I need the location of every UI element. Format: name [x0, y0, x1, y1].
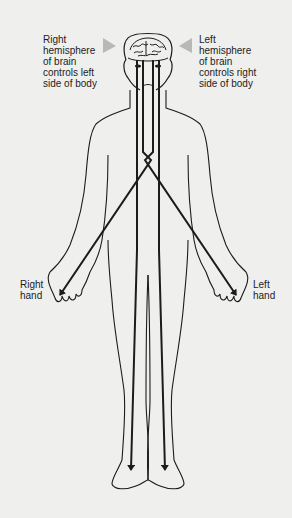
pointer-triangle-left	[103, 38, 116, 53]
face	[135, 65, 161, 87]
body-outline	[48, 90, 248, 489]
label-left-hand: Left hand	[253, 279, 275, 301]
brain-body-diagram: Right hemisphere of brain controls left …	[0, 0, 292, 518]
brain	[130, 38, 166, 56]
label-right-hand: Right hand	[20, 279, 43, 301]
nerve-paths	[60, 60, 236, 470]
label-right-hemisphere: Right hemisphere of brain controls left …	[43, 34, 97, 89]
head-outline	[124, 34, 172, 91]
label-left-hemisphere: Left hemisphere of brain controls right …	[199, 34, 256, 89]
pointer-triangle-right	[179, 38, 192, 53]
